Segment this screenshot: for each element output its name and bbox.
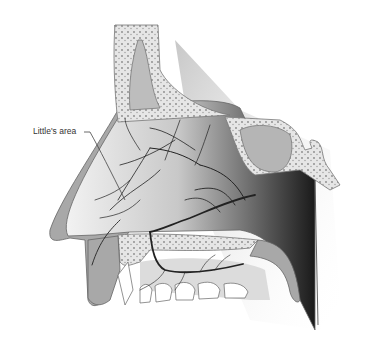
label-littles-area: Little's area [33,126,76,136]
upper-lip [88,236,120,305]
nasal-septum-diagram [0,0,376,345]
